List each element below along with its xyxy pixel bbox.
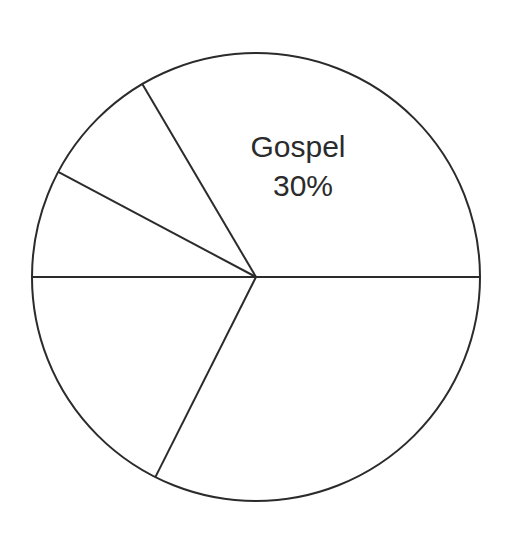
slice-label-gospel: Gospel	[250, 130, 345, 163]
pie-chart-svg: Gospel30%	[0, 0, 510, 537]
pie-chart-figure: Gospel30%	[0, 0, 510, 537]
slice-value-gospel: 30%	[273, 169, 333, 202]
